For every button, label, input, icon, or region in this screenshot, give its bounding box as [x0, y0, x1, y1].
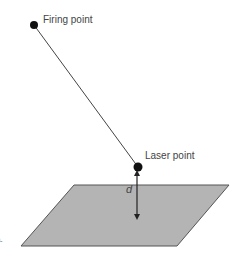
laser-point-label: Laser point — [145, 150, 195, 161]
ground-plane — [21, 185, 229, 246]
firing-point-dot — [30, 21, 38, 29]
diagram-canvas: Firing point Laser point d a. — [0, 0, 239, 258]
trajectory-line — [34, 25, 138, 167]
firing-point-label: Firing point — [43, 14, 93, 25]
laser-point-dot — [134, 163, 143, 172]
panel-label: a. — [0, 235, 3, 244]
distance-label: d — [126, 183, 133, 195]
